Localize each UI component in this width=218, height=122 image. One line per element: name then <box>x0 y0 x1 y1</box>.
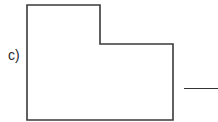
figure-outline <box>27 5 173 120</box>
l-shaped-figure <box>0 0 218 122</box>
answer-blank-line[interactable] <box>184 88 218 89</box>
